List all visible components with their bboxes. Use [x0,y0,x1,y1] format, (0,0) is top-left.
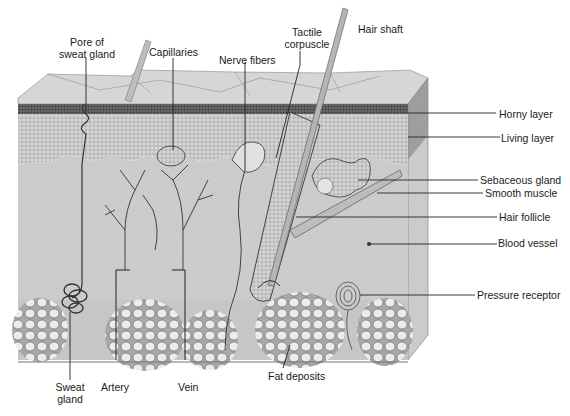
label-sebaceous-gland: Sebaceous gland [480,174,561,186]
label-line: Pore of [52,36,122,48]
fat-lobule [255,292,345,368]
fat-lobule [12,298,68,362]
skin-cross-section-illustration [0,0,570,416]
label-line: corpuscle [282,38,332,50]
label-tactile-corpuscle: Tactile corpuscle [282,26,332,50]
label-artery: Artery [101,381,129,393]
label-line: Tactile [282,26,332,38]
horny-layer [18,104,408,114]
label-smooth-muscle: Smooth muscle [485,187,557,199]
label-pore-of-sweat-gland: Pore of sweat gland [52,36,122,60]
label-hair-follicle: Hair follicle [499,211,550,223]
label-living-layer: Living layer [501,132,554,144]
label-capillaries: Capillaries [149,46,198,58]
skin-diagram: Pore of sweat gland Capillaries Nerve fi… [0,0,570,416]
label-hair-shaft: Hair shaft [358,23,403,35]
fat-lobule [182,310,238,370]
capillary-loop [157,146,185,166]
label-pressure-receptor: Pressure receptor [477,289,560,301]
label-line: sweat gland [52,48,122,60]
label-nerve-fibers: Nerve fibers [219,54,276,66]
label-line: gland [52,393,88,405]
label-sweat-gland: Sweat gland [52,381,88,405]
fat-lobule [105,299,185,371]
label-fat-deposits: Fat deposits [268,370,325,382]
label-horny-layer: Horny layer [499,108,553,120]
label-line: Sweat [52,381,88,393]
fat-lobule [357,298,413,366]
label-vein: Vein [178,381,198,393]
skin-surface [18,70,428,104]
label-blood-vessel: Blood vessel [498,237,558,249]
